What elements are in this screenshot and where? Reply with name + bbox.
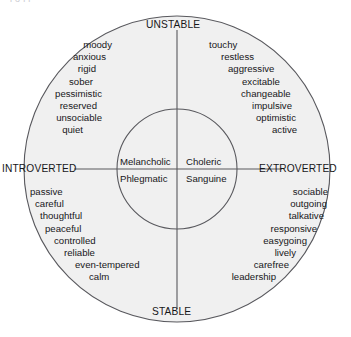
trait-list-sanguine: sociableoutgoingtalkativeresponsiveeasyg… <box>196 186 336 284</box>
trait-word: even-tempered <box>75 259 140 271</box>
trait-word: peaceful <box>45 223 81 235</box>
axis-label-extroverted: EXTROVERTED <box>259 163 337 174</box>
trait-word: quiet <box>62 124 83 136</box>
trait-word: optimistic <box>256 112 296 124</box>
trait-word: talkative <box>289 210 324 222</box>
trait-word: reserved <box>60 100 97 112</box>
trait-word: unsociable <box>56 112 102 124</box>
trait-word: outgoing <box>290 198 327 210</box>
trait-word: impulsive <box>252 100 292 112</box>
temperament-phlegmatic: Phlegmatic <box>120 173 167 184</box>
trait-word: lively <box>275 247 296 259</box>
trait-list-choleric: touchyrestlessaggressiveexcitablechangea… <box>196 39 336 137</box>
axis-label-introverted: INTROVERTED <box>2 163 76 174</box>
trait-word: touchy <box>209 39 237 51</box>
trait-word: anxious <box>73 51 106 63</box>
trait-word: sober <box>69 76 93 88</box>
trait-word: passive <box>30 186 63 198</box>
trait-word: carefree <box>254 259 289 271</box>
trait-word: changeable <box>241 88 291 100</box>
trait-word: rigid <box>78 63 96 75</box>
temperament-sanguine: Sanguine <box>186 173 227 184</box>
trait-word: sociable <box>293 186 328 198</box>
trait-word: easygoing <box>263 235 307 247</box>
trait-list-melancholic: moodyanxiousrigidsoberpessimisticreserve… <box>16 39 126 137</box>
trait-word: restless <box>221 51 254 63</box>
trait-word: active <box>272 124 297 136</box>
trait-word: responsive <box>271 223 317 235</box>
trait-word: careful <box>35 198 64 210</box>
temperament-choleric: Choleric <box>186 156 221 167</box>
axis-label-stable: STABLE <box>152 306 191 317</box>
temperament-melancholic: Melancholic <box>120 156 171 167</box>
trait-word: thoughtful <box>40 210 82 222</box>
trait-word: pessimistic <box>55 88 102 100</box>
trait-word: excitable <box>242 76 280 88</box>
trait-word: reliable <box>64 247 95 259</box>
trait-word: calm <box>89 271 109 283</box>
trait-word: aggressive <box>228 63 274 75</box>
axis-label-unstable: UNSTABLE <box>146 19 200 30</box>
trait-word: moody <box>83 39 112 51</box>
trait-list-phlegmatic: passivecarefulthoughtfulpeacefulcontroll… <box>16 186 146 284</box>
trait-word: leadership <box>232 271 276 283</box>
trait-word: controlled <box>54 235 96 247</box>
personality-circumplex-figure: l o l l UNSTABLE STABLE INTROVERTED EXTR… <box>0 0 351 337</box>
